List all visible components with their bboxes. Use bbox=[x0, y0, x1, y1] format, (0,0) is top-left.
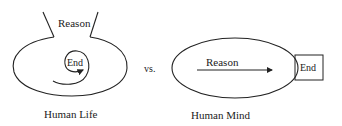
vs-separator: vs. bbox=[144, 63, 155, 74]
human-mind-ellipse bbox=[172, 38, 298, 98]
human-mind-caption: Human Mind bbox=[191, 109, 250, 121]
diagram-canvas: Reason End Human Life vs. Reason End Hum… bbox=[0, 0, 342, 126]
human-mind-diagram: Reason End Human Mind bbox=[172, 38, 323, 121]
end-label-left: End bbox=[67, 57, 83, 68]
funnel-right-edge bbox=[90, 12, 98, 37]
end-label-right: End bbox=[300, 62, 316, 73]
reason-label-right: Reason bbox=[206, 56, 239, 68]
reason-label-left: Reason bbox=[58, 17, 91, 29]
human-life-caption: Human Life bbox=[44, 108, 98, 120]
funnel-left-edge bbox=[43, 12, 54, 37]
human-life-diagram: Reason End Human Life bbox=[13, 12, 127, 120]
